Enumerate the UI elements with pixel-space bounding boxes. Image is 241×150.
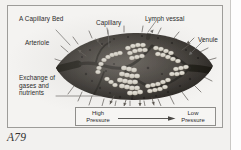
label-lymph-vessal: Lymph vessal bbox=[145, 15, 184, 23]
capillary-bed-figure: A Capillary Bed Capillary Lymph vessal V… bbox=[0, 0, 241, 150]
figure-panel: A Capillary Bed Capillary Lymph vessal V… bbox=[7, 5, 223, 128]
label-venule: Venule bbox=[198, 36, 218, 44]
label-a-capillary-bed: A Capillary Bed bbox=[19, 15, 63, 23]
label-arteriole: Arteriole bbox=[25, 39, 49, 47]
low-pressure-label: Low Pressure bbox=[176, 110, 210, 124]
venule-vessel bbox=[190, 68, 217, 72]
high-pressure-label: High Pressure bbox=[81, 110, 115, 124]
pressure-direction-arrow bbox=[118, 116, 176, 121]
label-exchange-of-gases-and-nutrients: Exchange of gases and nutrients bbox=[19, 74, 55, 97]
page-right-gutter bbox=[231, 0, 241, 150]
label-capillary: Capillary bbox=[96, 19, 121, 27]
figure-caption: A79 bbox=[7, 131, 26, 143]
pressure-gradient-legend: High Pressure Low Pressure bbox=[75, 107, 216, 126]
capillary-bed-illustration bbox=[52, 24, 217, 106]
